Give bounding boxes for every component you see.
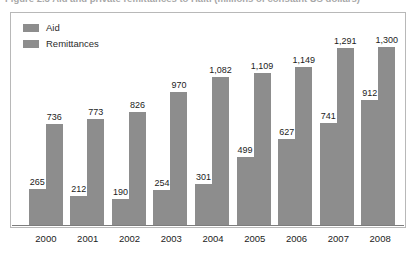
bar-wrap: 254	[153, 14, 170, 225]
x-axis-tick-2008: 2008	[359, 232, 401, 246]
legend-item-remittances: Remittances	[23, 37, 99, 50]
x-axis-tick-2006: 2006	[276, 232, 318, 246]
legend-label-remittances: Remittances	[46, 39, 99, 49]
bar-remittances-2005[interactable]: 1,109	[254, 73, 271, 225]
bar-wrap: 970	[170, 14, 187, 225]
chart-frame: Aid Remittances 265736212773190826254970…	[10, 12, 406, 228]
bar-value-label: 212	[70, 184, 87, 194]
legend-swatch-icon	[23, 24, 39, 32]
bar-wrap: 826	[129, 14, 146, 225]
bar-value-label: 826	[129, 100, 146, 110]
x-axis-tick-2003: 2003	[150, 232, 192, 246]
bar-value-label: 499	[237, 145, 254, 155]
bar-value-label: 741	[320, 111, 337, 121]
bar-aid-2002[interactable]: 190	[112, 199, 129, 225]
x-axis-tick-2005: 2005	[234, 232, 276, 246]
bar-aid-2004[interactable]: 301	[195, 184, 212, 225]
chart-legend: Aid Remittances	[23, 21, 99, 53]
bar-group-2004: 3011,082	[191, 14, 233, 225]
x-axis-tick-2007: 2007	[317, 232, 359, 246]
bar-aid-2003[interactable]: 254	[153, 190, 170, 225]
bar-remittances-2000[interactable]: 736	[46, 124, 63, 225]
x-axis-labels: 200020012002200320042005200620072008	[11, 232, 407, 250]
bar-value-label: 1,300	[375, 35, 400, 45]
x-axis-tick-2004: 2004	[192, 232, 234, 246]
x-axis-tick-2000: 2000	[25, 232, 67, 246]
bar-value-label: 1,082	[208, 65, 233, 75]
legend-label-aid: Aid	[46, 23, 60, 33]
bar-value-label: 190	[112, 187, 129, 197]
bar-aid-2006[interactable]: 627	[278, 139, 295, 225]
bar-value-label: 1,109	[250, 61, 275, 71]
x-axis-tick-2001: 2001	[67, 232, 109, 246]
bar-value-label: 773	[87, 107, 104, 117]
bar-remittances-2004[interactable]: 1,082	[212, 77, 229, 225]
bar-value-label: 1,149	[291, 55, 316, 65]
bar-value-label: 1,291	[333, 36, 358, 46]
x-axis-line	[12, 225, 404, 226]
bar-remittances-2008[interactable]: 1,300	[378, 47, 395, 225]
bar-value-label: 254	[153, 178, 170, 188]
x-axis-tick-list: 200020012002200320042005200620072008	[25, 232, 401, 246]
bar-value-label: 265	[29, 177, 46, 187]
bar-wrap: 1,109	[254, 14, 271, 225]
bar-value-label: 970	[170, 80, 187, 90]
bar-aid-2000[interactable]: 265	[29, 189, 46, 225]
bar-aid-2007[interactable]: 741	[320, 123, 337, 225]
bar-aid-2005[interactable]: 499	[237, 157, 254, 225]
bar-group-2002: 190826	[108, 14, 150, 225]
bar-wrap: 1,300	[378, 14, 395, 225]
bar-group-2007: 7411,291	[316, 14, 358, 225]
figure-caption: Figure 2.3 Aid and private remittances t…	[0, 0, 415, 5]
legend-item-aid: Aid	[23, 21, 99, 34]
bar-remittances-2006[interactable]: 1,149	[295, 67, 312, 225]
bar-wrap: 1,149	[295, 14, 312, 225]
bar-value-label: 301	[195, 172, 212, 182]
legend-swatch-icon	[23, 40, 39, 48]
bar-wrap: 627	[278, 14, 295, 225]
figure-caption-text: Figure 2.3 Aid and private remittances t…	[0, 0, 415, 5]
bar-wrap: 301	[195, 14, 212, 225]
x-axis-tick-2002: 2002	[109, 232, 151, 246]
bar-wrap: 499	[237, 14, 254, 225]
bar-aid-2001[interactable]: 212	[70, 196, 87, 225]
bar-wrap: 1,082	[212, 14, 229, 225]
bar-wrap: 190	[112, 14, 129, 225]
bar-remittances-2001[interactable]: 773	[87, 119, 104, 225]
bar-group-2003: 254970	[150, 14, 192, 225]
bar-wrap: 912	[361, 14, 378, 225]
bar-value-label: 736	[46, 112, 63, 122]
bar-remittances-2003[interactable]: 970	[170, 92, 187, 225]
bar-remittances-2002[interactable]: 826	[129, 112, 146, 225]
bar-group-2006: 6271,149	[274, 14, 316, 225]
bar-group-2008: 9121,300	[358, 14, 400, 225]
bar-value-label: 912	[361, 88, 378, 98]
bar-aid-2008[interactable]: 912	[361, 100, 378, 225]
bar-remittances-2007[interactable]: 1,291	[337, 48, 354, 225]
bar-wrap: 1,291	[337, 14, 354, 225]
bar-group-2005: 4991,109	[233, 14, 275, 225]
bar-value-label: 627	[278, 127, 295, 137]
